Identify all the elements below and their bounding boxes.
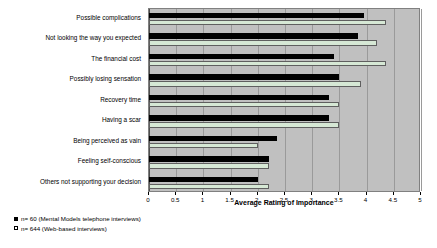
bar-1 [149,102,339,108]
legend-label: n= 644 (Web-based interviews) [21,224,107,234]
tick-mark [202,192,203,195]
bar-0 [149,74,339,80]
gridline [394,9,395,191]
category-axis-labels: Possible complicationsNot looking the wa… [0,8,145,192]
tick-mark [257,192,258,195]
bar-0 [149,33,358,39]
bar-1 [149,40,377,46]
gridline [421,9,422,191]
bar-0 [149,177,258,183]
tick-mark [284,192,285,195]
tick-mark [175,192,176,195]
tick-mark [338,192,339,195]
tick-mark [393,192,394,195]
tick-mark [148,192,149,195]
bar-0 [149,136,277,142]
bar-1 [149,61,386,67]
legend-item: n= 60 (Mental Models telephone interview… [14,214,141,224]
legend-swatch-filled-square-icon [14,217,18,221]
plot-area [148,8,420,192]
bar-1 [149,163,269,169]
x-axis-title: Average Rating of Importance [148,199,420,206]
category-label: Possibly losing sensation [70,76,141,82]
category-label: Recovery time [100,97,141,103]
gridline [367,9,368,191]
legend-item: n= 644 (Web-based interviews) [14,224,141,234]
bar-0 [149,115,329,121]
bar-0 [149,156,269,162]
tick-mark [311,192,312,195]
tick-mark [420,192,421,195]
bar-1 [149,184,269,190]
bar-1 [149,122,339,128]
category-label: Not looking the way you expected [45,35,141,41]
bar-1 [149,81,361,87]
category-label: Others not supporting your decision [40,179,141,185]
legend-label: n= 60 (Mental Models telephone interview… [21,214,141,224]
category-label: Feeling self-conscious [78,158,141,164]
legend: n= 60 (Mental Models telephone interview… [14,214,141,233]
category-label: Being perceived as vain [73,138,141,144]
bar-0 [149,54,334,60]
tick-mark [230,192,231,195]
bar-chart: Possible complicationsNot looking the wa… [0,0,437,248]
bar-1 [149,20,386,26]
tick-mark [366,192,367,195]
bar-1 [149,143,258,149]
category-label: Having a scar [102,117,141,123]
bar-0 [149,95,329,101]
category-label: The financial cost [91,56,141,62]
bar-0 [149,13,364,19]
legend-swatch-open-square-icon [14,226,18,230]
category-label: Possible complications [76,15,141,21]
